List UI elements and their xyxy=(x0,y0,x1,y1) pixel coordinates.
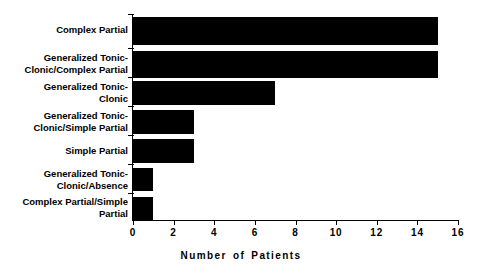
category-label-2: Generalized Tonic- Clonic xyxy=(5,81,133,104)
y-axis-tick xyxy=(128,193,134,194)
x-axis-tick-label-12: 12 xyxy=(362,227,392,239)
x-axis-tick-16 xyxy=(458,220,459,225)
x-axis-tick-8 xyxy=(296,220,297,225)
x-axis-tick-label-8: 8 xyxy=(281,227,311,239)
x-axis-tick-label-16: 16 xyxy=(443,227,473,239)
x-axis-tick-12 xyxy=(377,220,378,225)
bar-generalized-tonic-clonic xyxy=(133,81,275,105)
x-axis-tick-label-0: 0 xyxy=(118,227,148,239)
y-axis-tick xyxy=(128,164,134,165)
bar-complex-partial-simple-partial xyxy=(133,197,153,220)
y-axis-tick xyxy=(128,48,134,49)
x-axis-tick-label-6: 6 xyxy=(240,227,270,239)
bar-gtc-complex-partial xyxy=(133,51,438,78)
category-label-4: Simple Partial xyxy=(5,145,133,157)
bar-complex-partial xyxy=(133,17,438,45)
x-axis-tick-label-14: 14 xyxy=(402,227,432,239)
x-axis-tick-label-4: 4 xyxy=(199,227,229,239)
bar-gtc-simple-partial xyxy=(133,110,194,134)
x-axis-tick-0 xyxy=(133,220,134,225)
category-label-3: Generalized Tonic- Clonic/Simple Partial xyxy=(5,110,133,133)
x-axis-tick-10 xyxy=(336,220,337,225)
x-axis-tick-2 xyxy=(174,220,175,225)
bar-simple-partial xyxy=(133,139,194,163)
y-axis-tick xyxy=(128,14,134,15)
y-axis-tick xyxy=(128,106,134,107)
x-axis-title: Number of Patients xyxy=(0,250,482,261)
plot-area xyxy=(133,14,458,220)
category-label-5: Generalized Tonic- Clonic/Absence xyxy=(5,168,133,191)
bar-gtc-absence xyxy=(133,168,153,191)
bar-chart: Complex Partial Generalized Tonic- Cloni… xyxy=(0,0,482,276)
category-label-0: Complex Partial xyxy=(5,24,133,36)
x-axis-tick-4 xyxy=(214,220,215,225)
category-label-6: Complex Partial/Simple Partial xyxy=(5,196,133,219)
x-axis-tick-label-2: 2 xyxy=(159,227,189,239)
x-axis-tick-6 xyxy=(255,220,256,225)
x-axis-tick-label-10: 10 xyxy=(321,227,351,239)
x-axis-tick-14 xyxy=(417,220,418,225)
category-label-1: Generalized Tonic- Clonic/Complex Partia… xyxy=(5,52,133,75)
y-axis-tick xyxy=(128,135,134,136)
